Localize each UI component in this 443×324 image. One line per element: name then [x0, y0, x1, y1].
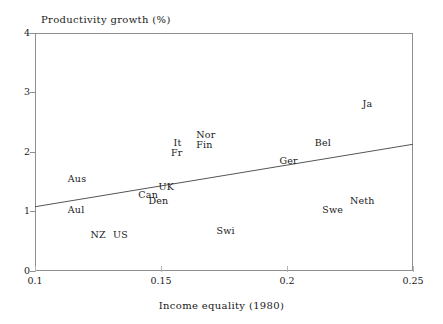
x-tick-mark-0 [35, 266, 36, 272]
data-point-label: Fr [171, 148, 183, 158]
y-tick-label-3: 3 [4, 87, 30, 97]
y-tick-mark-4 [30, 33, 36, 34]
data-point-label: Den [148, 196, 168, 206]
data-point-label: Aul [68, 205, 85, 215]
x-tick-mark-2 [287, 266, 288, 272]
y-axis-title: Productivity growth (%) [41, 14, 171, 25]
x-tick-label-1: 0.15 [136, 276, 186, 286]
y-tick-mark-1 [30, 211, 36, 212]
data-point-label: NZ [90, 230, 105, 240]
x-tick-label-2: 0.2 [262, 276, 312, 286]
data-point-label: US [113, 230, 128, 240]
y-tick-mark-3 [30, 92, 36, 93]
x-tick-label-0: 0.1 [10, 276, 60, 286]
y-tick-label-1: 1 [4, 206, 30, 216]
x-axis-title: Income equality (1980) [0, 300, 443, 311]
data-point-label: Bel [315, 138, 331, 148]
x-tick-mark-1 [161, 266, 162, 272]
y-tick-mark-2 [30, 152, 36, 153]
x-tick-mark-3 [413, 266, 414, 272]
scatter-plot-figure: Productivity growth (%) 4 3 2 1 0 0.1 0.… [0, 0, 443, 324]
y-tick-label-2: 2 [4, 147, 30, 157]
data-point-label: Neth [350, 196, 375, 206]
data-point-label: Ger [279, 156, 297, 166]
y-tick-label-0: 0 [4, 266, 30, 276]
data-point-label: UK [158, 182, 174, 192]
data-point-label: Fin [196, 140, 212, 150]
x-tick-label-3: 0.25 [388, 276, 438, 286]
data-point-label: Swi [216, 226, 234, 236]
data-point-label: Swe [322, 205, 343, 215]
data-point-label: Aus [68, 174, 86, 184]
data-point-label: Ja [363, 99, 373, 109]
y-tick-label-4: 4 [4, 28, 30, 38]
